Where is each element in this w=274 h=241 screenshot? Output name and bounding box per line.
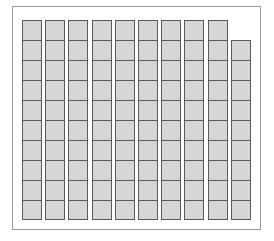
unit-cell bbox=[185, 181, 203, 201]
unit-cell bbox=[209, 201, 227, 219]
unit-cell bbox=[116, 161, 134, 181]
unit-cell bbox=[209, 101, 227, 121]
unit-cell bbox=[185, 101, 203, 121]
unit-cell bbox=[232, 161, 250, 181]
unit-cell bbox=[232, 201, 250, 219]
unit-cell bbox=[116, 21, 134, 41]
unit-cell bbox=[116, 81, 134, 101]
unit-cell bbox=[93, 61, 111, 81]
unit-cell bbox=[139, 21, 157, 41]
unit-cell bbox=[46, 61, 64, 81]
unit-cell bbox=[209, 161, 227, 181]
unit-cell bbox=[23, 81, 41, 101]
unit-cell bbox=[69, 141, 87, 161]
unit-cell bbox=[209, 181, 227, 201]
unit-cell bbox=[162, 201, 180, 219]
unit-cell bbox=[162, 121, 180, 141]
ten-rod bbox=[92, 20, 112, 220]
unit-cell bbox=[185, 201, 203, 219]
unit-cell bbox=[232, 121, 250, 141]
unit-cell bbox=[93, 161, 111, 181]
unit-cell bbox=[23, 21, 41, 41]
unit-cell bbox=[209, 81, 227, 101]
unit-cell bbox=[139, 101, 157, 121]
unit-cell bbox=[162, 41, 180, 61]
unit-cell bbox=[139, 161, 157, 181]
unit-cell bbox=[185, 61, 203, 81]
unit-cell bbox=[116, 141, 134, 161]
unit-cell bbox=[162, 101, 180, 121]
unit-cell bbox=[93, 101, 111, 121]
unit-cell bbox=[116, 101, 134, 121]
unit-cell bbox=[116, 41, 134, 61]
ten-rod bbox=[22, 20, 42, 220]
unit-cell bbox=[185, 121, 203, 141]
ten-rod bbox=[115, 20, 135, 220]
unit-cell bbox=[69, 161, 87, 181]
unit-cell bbox=[116, 61, 134, 81]
unit-cell bbox=[162, 61, 180, 81]
unit-cell bbox=[232, 101, 250, 121]
unit-cell bbox=[23, 181, 41, 201]
unit-cell bbox=[209, 21, 227, 41]
unit-cell bbox=[69, 21, 87, 41]
unit-cell bbox=[69, 181, 87, 201]
unit-cell bbox=[93, 201, 111, 219]
unit-cell bbox=[23, 161, 41, 181]
unit-cell bbox=[185, 41, 203, 61]
unit-cell bbox=[139, 181, 157, 201]
ten-rod bbox=[184, 20, 204, 220]
ten-rod bbox=[138, 20, 158, 220]
unit-cell bbox=[232, 61, 250, 81]
unit-cell bbox=[23, 101, 41, 121]
unit-cell bbox=[93, 81, 111, 101]
unit-cell bbox=[46, 81, 64, 101]
unit-cell bbox=[139, 121, 157, 141]
unit-cell bbox=[162, 21, 180, 41]
unit-cell bbox=[23, 141, 41, 161]
unit-cell bbox=[69, 121, 87, 141]
unit-cell bbox=[46, 41, 64, 61]
unit-cell bbox=[139, 141, 157, 161]
unit-cell bbox=[46, 121, 64, 141]
unit-cell bbox=[116, 201, 134, 219]
unit-cell bbox=[185, 81, 203, 101]
ten-rod bbox=[161, 20, 181, 220]
unit-cell bbox=[209, 41, 227, 61]
unit-cell bbox=[69, 41, 87, 61]
unit-cell bbox=[185, 161, 203, 181]
unit-cell bbox=[23, 41, 41, 61]
unit-cell bbox=[69, 61, 87, 81]
unit-cell bbox=[162, 81, 180, 101]
unit-cell bbox=[185, 141, 203, 161]
unit-cell bbox=[162, 181, 180, 201]
unit-cell bbox=[93, 121, 111, 141]
ten-rod bbox=[68, 20, 88, 220]
ten-rod bbox=[45, 20, 65, 220]
unit-cell bbox=[93, 21, 111, 41]
partial-rod bbox=[231, 40, 251, 220]
unit-cell bbox=[93, 141, 111, 161]
unit-cell bbox=[23, 201, 41, 219]
unit-cell bbox=[139, 41, 157, 61]
unit-cell bbox=[93, 181, 111, 201]
unit-cell bbox=[209, 141, 227, 161]
unit-cell bbox=[46, 101, 64, 121]
unit-cell bbox=[93, 41, 111, 61]
unit-cell bbox=[116, 181, 134, 201]
unit-cell bbox=[162, 161, 180, 181]
unit-cell bbox=[69, 101, 87, 121]
unit-cell bbox=[209, 61, 227, 81]
unit-cell bbox=[139, 81, 157, 101]
unit-cell bbox=[209, 121, 227, 141]
unit-cell bbox=[23, 121, 41, 141]
unit-cell bbox=[139, 201, 157, 219]
unit-cell bbox=[46, 141, 64, 161]
unit-cell bbox=[162, 141, 180, 161]
unit-cell bbox=[232, 41, 250, 61]
unit-cell bbox=[46, 181, 64, 201]
unit-cell bbox=[69, 201, 87, 219]
unit-cell bbox=[232, 141, 250, 161]
unit-cell bbox=[232, 81, 250, 101]
unit-cell bbox=[46, 201, 64, 219]
